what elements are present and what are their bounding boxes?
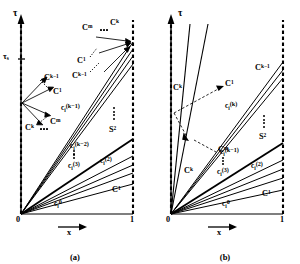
panel-a: τ τs 0 1 x Cm Ck C1 Ck−1 Ck−1 C1 Ck Cm c… xyxy=(0,0,150,264)
dots-cm-ck xyxy=(100,29,109,31)
label-cm-left: Cm xyxy=(50,118,60,126)
figure-root: τ τs 0 1 x Cm Ck C1 Ck−1 Ck−1 C1 Ck Cm c… xyxy=(0,0,300,264)
auxiliary-arrowheads xyxy=(182,86,224,141)
panel-a-plot xyxy=(0,0,150,264)
label-ck-top-b: Ck xyxy=(173,84,182,92)
dots-ci-vertical-b xyxy=(222,157,224,165)
dots-s2 xyxy=(113,107,115,120)
right-tick-label: 1 xyxy=(130,216,134,224)
label-c1-left: C1 xyxy=(53,88,62,96)
label-c1-lower-b: C1 xyxy=(262,190,271,198)
x-direction-arrow-b xyxy=(208,224,237,231)
label-ci-2: ci(2) xyxy=(100,156,112,166)
tau-s-label: τs xyxy=(3,53,9,62)
label-ci-km1: ci(k−1) xyxy=(61,103,80,113)
right-vertex-dotted-links xyxy=(90,48,99,72)
origin-tick-label: 0 xyxy=(16,216,20,224)
label-cm-top-right: Cm xyxy=(82,24,92,32)
label-ckm1-left: Ck−1 xyxy=(44,74,59,82)
x-axis-label-b: x xyxy=(217,229,221,237)
label-s2-b: S2 xyxy=(259,133,266,141)
steep-characteristics xyxy=(171,24,208,214)
tau-axis-label: τ xyxy=(13,9,17,19)
right-tick-label-b: 1 xyxy=(280,216,284,224)
panel-a-caption: (a) xyxy=(0,252,150,262)
label-ck-top-right: Ck xyxy=(110,19,119,27)
panel-b: τ 0 1 x Ck C1 Cm Ck Ck−1 ci(k) ci(k−1) c… xyxy=(150,0,300,264)
origin-tick-label-b: 0 xyxy=(166,216,170,224)
label-c1-b: C1 xyxy=(225,80,234,88)
dots-s2-b xyxy=(263,115,265,128)
x-axis-label: x xyxy=(67,229,71,237)
label-ck-left: Ck xyxy=(25,124,34,132)
label-s2: S2 xyxy=(109,126,116,134)
label-ci-km1-b: ci(k−1) xyxy=(220,147,239,157)
label-ci-0: ci0 xyxy=(54,199,62,209)
label-ci-0-b: ci0 xyxy=(222,199,230,209)
dots-ck-cm xyxy=(40,128,49,130)
label-ci-3-b: ci(3) xyxy=(217,167,229,177)
label-ci-3: ci(3) xyxy=(68,161,80,171)
tau-axis-label-b: τ xyxy=(178,9,182,19)
x-direction-arrow xyxy=(58,224,87,231)
left-vertex-arrows xyxy=(22,77,54,125)
label-c1-right: C1 xyxy=(77,57,86,65)
label-ckm1-right: Ck−1 xyxy=(72,72,87,80)
dots-ci-vertical xyxy=(73,150,75,159)
label-ck-bottom-b: Ck xyxy=(184,167,193,175)
label-c1-lower: C1 xyxy=(112,186,121,194)
label-ckm1-b: Ck−1 xyxy=(255,64,270,72)
label-ci-k-b: ci(k) xyxy=(225,101,237,111)
panel-b-caption: (b) xyxy=(150,252,300,262)
label-ci-2-b: ci(2) xyxy=(251,161,263,171)
panel-b-plot xyxy=(150,0,300,264)
